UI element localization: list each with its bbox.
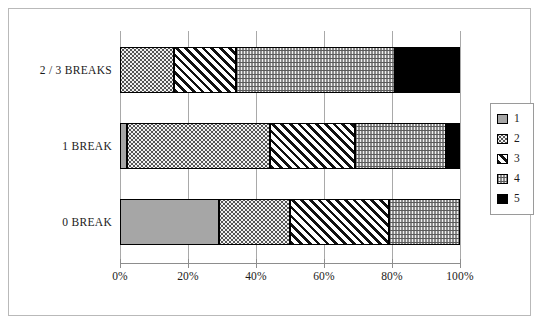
plot-area xyxy=(120,31,460,263)
bar-segment-series-3 xyxy=(290,199,389,245)
x-tick-label-0: 0% xyxy=(90,270,150,282)
legend-swatch-icon-4 xyxy=(497,174,508,184)
legend-swatch-icon-5 xyxy=(497,194,508,204)
bar-segment-series-3 xyxy=(270,123,355,169)
bar-2-3-breaks xyxy=(120,47,460,93)
legend-swatch-icon-3 xyxy=(497,154,508,164)
legend-label-1: 1 xyxy=(514,113,520,125)
bar-segment-series-2 xyxy=(127,123,270,169)
bar-segment-series-1 xyxy=(120,199,219,245)
legend-swatch-icon-2 xyxy=(497,134,508,144)
bar-segment-series-4 xyxy=(389,199,460,245)
legend-item-5: 5 xyxy=(497,189,533,209)
legend-item-3: 3 xyxy=(497,149,533,169)
bar-1-break xyxy=(120,123,460,169)
bar-label-1: 1 BREAK xyxy=(12,140,112,152)
legend-item-4: 4 xyxy=(497,169,533,189)
bar-segment-series-5 xyxy=(446,123,460,169)
legend-label-3: 3 xyxy=(514,153,520,165)
legend-item-1: 1 xyxy=(497,109,533,129)
legend-label-2: 2 xyxy=(514,133,520,145)
chart-legend: 12345 xyxy=(490,103,534,215)
x-tick-label-1: 20% xyxy=(158,270,218,282)
bar-segment-series-4 xyxy=(236,47,396,93)
legend-swatch-icon-1 xyxy=(497,114,508,124)
x-tick-label-2: 40% xyxy=(226,270,286,282)
bar-label-2: 0 BREAK xyxy=(12,216,112,228)
bar-segment-series-2 xyxy=(219,199,290,245)
bar-label-0: 2 / 3 BREAKS xyxy=(12,64,112,76)
bar-segment-series-5 xyxy=(395,47,460,93)
bar-0-break xyxy=(120,199,460,245)
bar-segment-series-3 xyxy=(174,47,235,93)
chart-frame: 0%20%40%60%80%100% 2 / 3 BREAKS1 BREAK0 … xyxy=(8,8,531,316)
legend-label-5: 5 xyxy=(514,193,520,205)
bar-segment-series-4 xyxy=(355,123,447,169)
bar-segment-series-1 xyxy=(120,123,127,169)
x-axis-line xyxy=(120,263,461,264)
gridline-100pct xyxy=(460,31,461,263)
bar-segment-series-2 xyxy=(120,47,174,93)
x-tick-label-5: 100% xyxy=(430,270,490,282)
legend-label-4: 4 xyxy=(514,173,520,185)
x-tick-label-4: 80% xyxy=(362,270,422,282)
legend-item-2: 2 xyxy=(497,129,533,149)
x-tick-5 xyxy=(460,259,461,268)
x-tick-label-3: 60% xyxy=(294,270,354,282)
